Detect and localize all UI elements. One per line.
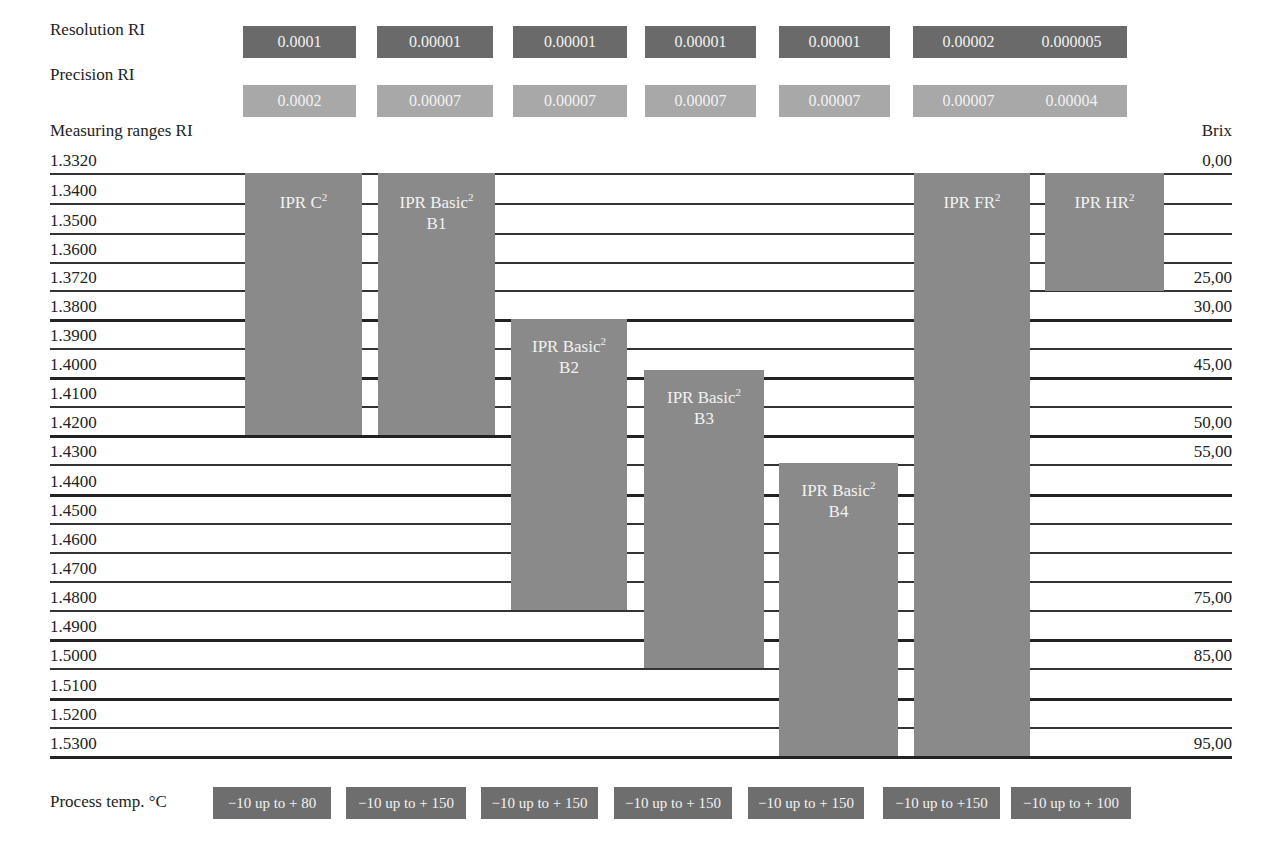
- brix-tick-label: 55,00: [1194, 442, 1232, 462]
- instrument-superscript: 2: [735, 386, 741, 398]
- grid-line: [50, 406, 1232, 408]
- instrument-bar: IPR Basic2B2: [511, 319, 627, 610]
- grid-line: [50, 377, 1232, 380]
- ri-tick-label: 1.3500: [50, 211, 97, 231]
- grid-line: [50, 581, 1232, 583]
- ri-tick-label: 1.4700: [50, 559, 97, 579]
- instrument-superscript: 2: [322, 191, 328, 203]
- instrument-variant: B3: [694, 409, 714, 428]
- grid-line: [50, 668, 1232, 670]
- ri-tick-label: 1.4800: [50, 588, 97, 608]
- ri-tick-label: 1.3600: [50, 240, 97, 260]
- ri-tick-label: 1.4400: [50, 472, 97, 492]
- resolution-value: 0.000005: [1016, 26, 1127, 58]
- instrument-name: IPR Basic: [400, 193, 468, 212]
- brix-tick-label: 45,00: [1194, 355, 1232, 375]
- instrument-name: IPR C: [280, 193, 322, 212]
- grid-line: [50, 435, 1232, 438]
- resolution-value: 0.0001: [243, 26, 356, 58]
- ri-tick-label: 1.4200: [50, 413, 97, 433]
- process-temp-value: −10 up to + 100: [1011, 787, 1131, 819]
- ri-tick-label: 1.3320: [50, 151, 97, 171]
- instrument-superscript: 2: [468, 191, 474, 203]
- ri-tick-label: 1.4500: [50, 501, 97, 521]
- precision-value: 0.00004: [1016, 85, 1127, 117]
- resolution-value: 0.00001: [513, 26, 627, 58]
- brix-tick-label: 0,00: [1202, 151, 1232, 171]
- ri-tick-label: 1.5300: [50, 734, 97, 754]
- grid-line: [50, 698, 1232, 701]
- brix-tick-label: 25,00: [1194, 268, 1232, 288]
- process-temp-value: −10 up to + 150: [614, 787, 732, 819]
- ri-tick-label: 1.5100: [50, 676, 97, 696]
- instrument-superscript: 2: [995, 191, 1001, 203]
- resolution-value: 0.00001: [377, 26, 493, 58]
- process-temp-value: −10 up to +150: [883, 787, 1000, 819]
- grid-line: [50, 727, 1232, 729]
- ri-tick-label: 1.4300: [50, 442, 97, 462]
- precision-value: 0.00007: [779, 85, 890, 117]
- resolution-value: 0.00002: [913, 26, 1024, 58]
- measuring-ranges-label: Measuring ranges RI: [50, 121, 193, 141]
- process-temp-value: −10 up to + 150: [481, 787, 598, 819]
- instrument-variant: B1: [427, 214, 447, 233]
- process-temp-value: −10 up to + 150: [346, 787, 466, 819]
- ri-tick-label: 1.5200: [50, 705, 97, 725]
- ri-tick-label: 1.3900: [50, 326, 97, 346]
- grid-line: [50, 756, 1232, 759]
- instrument-bar: IPR FR2: [914, 173, 1030, 756]
- precision-value: 0.00007: [513, 85, 627, 117]
- instrument-bar: IPR Basic2B1: [378, 173, 495, 435]
- ri-tick-label: 1.3720: [50, 268, 97, 288]
- brix-tick-label: 75,00: [1194, 588, 1232, 608]
- ri-tick-label: 1.4100: [50, 384, 97, 404]
- instrument-name: IPR Basic: [532, 337, 600, 356]
- instrument-variant: B4: [829, 502, 849, 521]
- ri-tick-label: 1.4600: [50, 530, 97, 550]
- instrument-superscript: 2: [870, 479, 876, 491]
- brix-tick-label: 95,00: [1194, 734, 1232, 754]
- precision-value: 0.00007: [377, 85, 493, 117]
- precision-label: Precision RI: [50, 65, 135, 85]
- grid-line: [50, 639, 1232, 642]
- instrument-bar: IPR Basic2B3: [644, 370, 764, 668]
- instrument-name: IPR FR: [944, 193, 996, 212]
- precision-value: 0.00007: [645, 85, 756, 117]
- resolution-label: Resolution RI: [50, 20, 145, 40]
- instrument-name: IPR Basic: [667, 388, 735, 407]
- resolution-value: 0.00001: [645, 26, 756, 58]
- precision-value: 0.00007: [913, 85, 1024, 117]
- instrument-bar: IPR C2: [245, 173, 362, 435]
- brix-tick-label: 50,00: [1194, 413, 1232, 433]
- grid-line: [50, 464, 1232, 466]
- ri-tick-label: 1.3400: [50, 181, 97, 201]
- brix-tick-label: 85,00: [1194, 646, 1232, 666]
- brix-tick-label: 30,00: [1194, 297, 1232, 317]
- resolution-value: 0.00001: [779, 26, 890, 58]
- grid-line: [50, 552, 1232, 554]
- grid-line: [50, 319, 1232, 322]
- grid-line: [50, 348, 1232, 350]
- ri-tick-label: 1.4000: [50, 355, 97, 375]
- instrument-variant: B2: [559, 358, 579, 377]
- grid-line: [50, 610, 1232, 612]
- brix-label: Brix: [1202, 121, 1232, 141]
- ri-tick-label: 1.5000: [50, 646, 97, 666]
- instrument-name: IPR HR: [1075, 193, 1129, 212]
- grid-line: [50, 494, 1232, 497]
- instrument-superscript: 2: [600, 335, 606, 347]
- grid-line: [50, 523, 1232, 525]
- ri-tick-label: 1.4900: [50, 617, 97, 637]
- instrument-name: IPR Basic: [802, 481, 870, 500]
- instrument-superscript: 2: [1129, 191, 1135, 203]
- process-temp-label: Process temp. °C: [50, 792, 167, 812]
- instrument-bar: IPR Basic2B4: [779, 463, 898, 756]
- precision-value: 0.0002: [243, 85, 356, 117]
- instrument-bar: IPR HR2: [1045, 173, 1164, 291]
- ri-tick-label: 1.3800: [50, 297, 97, 317]
- process-temp-value: −10 up to + 150: [748, 787, 864, 819]
- process-temp-value: −10 up to + 80: [213, 787, 331, 819]
